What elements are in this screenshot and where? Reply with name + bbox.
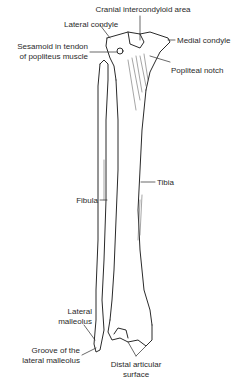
label-distal-articular-line1: Distal articular: [106, 360, 166, 370]
sesamoid-bone: [117, 48, 123, 54]
fibula: [94, 60, 108, 352]
label-groove-lateral-malleolus: Groove of the lateral malleolus: [10, 346, 80, 365]
label-distal-articular-line2: surface: [106, 370, 166, 380]
label-fibula: Fibula: [60, 196, 98, 206]
label-cranial-intercondyloid-area: Cranial intercondyloid area: [88, 5, 198, 15]
label-groove-line1: Groove of the: [10, 346, 80, 356]
label-tibia: Tibia: [157, 178, 174, 188]
label-medial-condyle: Medial condyle: [177, 36, 230, 46]
label-lateral-malleolus-line2: malleolus: [40, 317, 92, 327]
tibia-shaft: [110, 80, 118, 320]
label-sesamoid: Sesamoid in tendon of popliteus muscle: [0, 42, 88, 61]
leader-lateral-malleolus: [84, 325, 95, 340]
leader-distal-articular-2: [136, 346, 146, 356]
label-distal-articular-surface: Distal articular surface: [106, 360, 166, 379]
label-popliteal-notch: Popliteal notch: [171, 66, 223, 76]
label-lateral-condyle: Lateral condyle: [64, 20, 118, 30]
label-lateral-malleolus: Lateral malleolus: [40, 307, 92, 326]
label-lateral-malleolus-line1: Lateral: [40, 307, 92, 317]
leader-popliteal: [150, 56, 170, 62]
leader-distal-articular-1: [128, 342, 136, 356]
label-sesamoid-line1: Sesamoid in tendon: [0, 42, 88, 52]
label-groove-line2: lateral malleolus: [10, 356, 80, 366]
label-sesamoid-line2: of popliteus muscle: [0, 52, 88, 62]
leader-groove: [82, 348, 96, 355]
